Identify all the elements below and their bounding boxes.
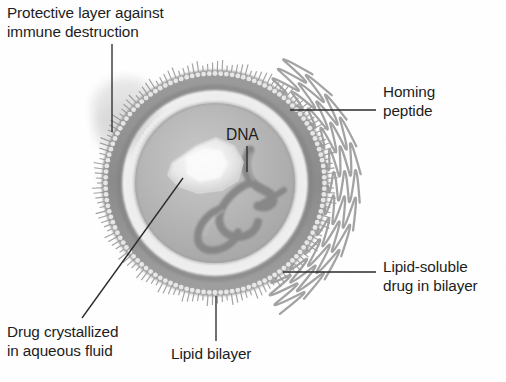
label-protective-layer: Protective layer against immune destruct… <box>7 4 164 41</box>
label-lipid-soluble-drug: Lipid-soluble drug in bilayer <box>383 258 478 295</box>
label-dna: DNA <box>226 126 259 145</box>
label-homing-peptide: Homing peptide <box>383 83 435 120</box>
label-drug-crystallized: Drug crystallized in aqueous fluid <box>7 323 118 360</box>
label-lipid-bilayer: Lipid bilayer <box>171 345 251 364</box>
